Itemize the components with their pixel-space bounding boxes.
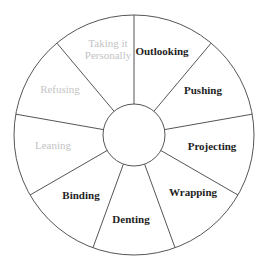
- segment-label-binding: Binding: [62, 189, 100, 201]
- segment-label-denting: Denting: [112, 213, 150, 225]
- segment-label-projecting: Projecting: [188, 140, 237, 152]
- segment-label-wrapping: Wrapping: [169, 186, 218, 198]
- segment-label-pushing: Pushing: [184, 84, 222, 96]
- inner-hub-circle: [103, 104, 165, 166]
- segment-label-taking-it-personally: Taking itPersonally: [85, 37, 132, 61]
- segment-label-leaning: Leaning: [35, 139, 72, 151]
- segment-label-refusing: Refusing: [40, 83, 80, 95]
- wheel-diagram: OutlookingPushingProjectingWrappingDenti…: [0, 0, 262, 269]
- segment-label-outlooking: Outlooking: [135, 45, 189, 57]
